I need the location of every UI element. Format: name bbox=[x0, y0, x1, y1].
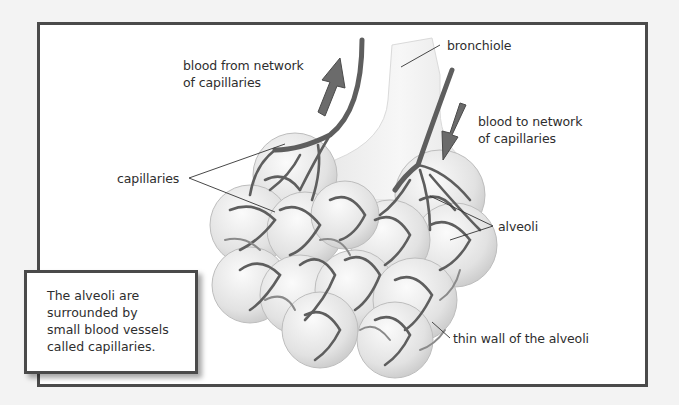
label-blood-to-network: blood to network of capillaries bbox=[478, 113, 582, 147]
label-blood-from-network: blood from network of capillaries bbox=[183, 57, 304, 91]
caption-line: The alveoli are bbox=[47, 287, 195, 304]
label-thin-wall: thin wall of the alveoli bbox=[453, 330, 589, 347]
caption-line: called capillaries. bbox=[47, 338, 195, 355]
caption-line: small blood vessels bbox=[47, 321, 195, 338]
label-bronchiole: bronchiole bbox=[447, 37, 511, 54]
caption-line: surrounded by bbox=[47, 304, 195, 321]
label-alveoli: alveoli bbox=[498, 218, 538, 235]
caption-box: The alveoli are surrounded by small bloo… bbox=[24, 270, 198, 374]
label-capillaries: capillaries bbox=[117, 170, 179, 187]
arrow-blood-out-icon bbox=[318, 58, 345, 116]
